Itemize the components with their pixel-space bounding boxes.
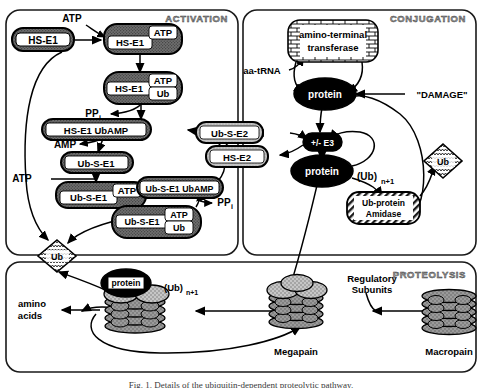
node-hs-e1-ubamp[interactable]: HS-E1 UbAMP — [42, 119, 151, 140]
node-tag-atp: ATP — [154, 27, 173, 38]
label-ppi-lower-subscript: i — [231, 203, 233, 210]
node-ub-s-e1-atp-ub[interactable]: Ub-S-E1 ATP Ub — [112, 206, 201, 238]
shuttle-label: Ub — [51, 252, 63, 262]
node-ub-s-e1-atp[interactable]: Ub-S-E1 ATP — [56, 182, 146, 208]
node-label: +/- E3 — [311, 138, 334, 148]
node-ub-s-e2[interactable]: Ub-S-E2 — [196, 122, 263, 143]
megapain-caps — [267, 275, 327, 299]
label-proteolysis-ub: (Ub) — [164, 282, 183, 293]
node-label: Ub-S-E1 UbAMP — [146, 184, 214, 194]
label-ppi-lower: PP — [217, 197, 231, 208]
label-aa-trna: aa-tRNA — [243, 65, 281, 76]
node-tag-ub: Ub — [173, 223, 185, 233]
shuttle-label: Ub — [437, 157, 449, 167]
node-label: HS-E1 — [115, 83, 144, 94]
node-ub-s-e1[interactable]: Ub-S-E1 — [61, 152, 133, 173]
node-hs-e2[interactable]: HS-E2 — [206, 146, 268, 167]
node-amino-terminal-transferase[interactable]: amino-terminal transferase — [288, 20, 378, 62]
label-amino-acids-line1: amino — [18, 298, 46, 309]
node-ub-s-e1-ubamp[interactable]: Ub-S-E1 UbAMP — [137, 177, 223, 198]
panel-title-proteolysis: PROTEOLYSIS — [393, 269, 466, 280]
node-label: protein — [308, 89, 342, 100]
node-label: Ub-S-E1 — [78, 158, 116, 169]
node-label-line1: Ub-protein — [362, 198, 405, 208]
shuttle-ub-right[interactable]: Ub — [424, 144, 462, 178]
node-protein-top[interactable]: protein — [294, 78, 356, 110]
shuttle-ub-left[interactable]: Ub — [38, 240, 76, 272]
node-label: Ub-S-E1 — [124, 217, 159, 227]
label-ub-n-plus-1-subscript: n+1 — [381, 177, 394, 186]
label-megapain: Megapain — [274, 346, 318, 357]
node-hs-e1-atp-ub[interactable]: HS-E1 ATP Ub — [104, 72, 182, 104]
node-protein-ubiquitinated[interactable]: protein — [291, 155, 353, 187]
panel-title-activation: ACTIVATION — [165, 13, 228, 24]
node-label: HS-E1 — [116, 37, 145, 48]
label-ppi-upper: PP — [85, 108, 99, 119]
node-label-line1: amino-terminal — [299, 29, 367, 40]
node-hs-e1[interactable]: HS-E1 — [12, 28, 74, 51]
node-hs-e1-atp[interactable]: HS-E1 ATP — [104, 24, 182, 54]
label-regulatory-line2: Subunits — [352, 284, 393, 295]
node-label: Ub-S-E2 — [211, 128, 248, 139]
node-tag-atp: ATP — [170, 210, 187, 220]
ubiquitin-pathway-diagram: HS-E1 HS-E1 ATP HS-E1 ATP Ub HS-E1 UbAMP… — [0, 0, 482, 388]
label-regulatory-line1: Regulatory — [347, 273, 397, 284]
label-damage: "DAMAGE" — [416, 89, 467, 100]
panel-title-conjugation: CONJUGATION — [390, 13, 466, 24]
node-tag-ub: Ub — [157, 88, 170, 99]
label-macropain: Macropain — [425, 346, 473, 357]
bound-protein-label: protein — [112, 278, 141, 288]
node-label: protein — [305, 166, 339, 177]
label-ub-n-plus-1: (Ub) — [357, 171, 377, 182]
macropain[interactable] — [422, 290, 476, 335]
label-amp: AMP — [54, 139, 77, 150]
node-label-line2: transferase — [307, 42, 358, 53]
label-ppi-upper-subscript: i — [99, 114, 101, 121]
label-atp-top: ATP — [62, 13, 82, 24]
node-tag-atp: ATP — [154, 75, 173, 86]
label-amino-acids-line2: acids — [18, 310, 42, 321]
node-label: HS-E1 UbAMP — [64, 125, 129, 136]
label-proteolysis-ub-subscript: n+1 — [186, 289, 198, 296]
node-e3[interactable]: +/- E3 — [303, 133, 342, 151]
node-label: Ub-S-E1 — [70, 192, 108, 203]
label-atp-left: ATP — [12, 173, 32, 184]
node-label-line2: Amidase — [366, 209, 402, 219]
proteasome-substrate-complex[interactable]: protein — [101, 269, 169, 333]
megapain[interactable] — [267, 275, 327, 329]
node-label: HS-E1 — [28, 35, 58, 46]
node-tag-atp: ATP — [118, 185, 137, 196]
node-ub-protein-amidase[interactable]: Ub-protein Amidase — [347, 192, 420, 224]
node-label: HS-E2 — [223, 152, 251, 163]
figure-container: HS-E1 HS-E1 ATP HS-E1 ATP Ub HS-E1 UbAMP… — [0, 0, 482, 388]
figure-caption: Fig. 1. Details of the ubiquitin-depende… — [0, 380, 482, 388]
